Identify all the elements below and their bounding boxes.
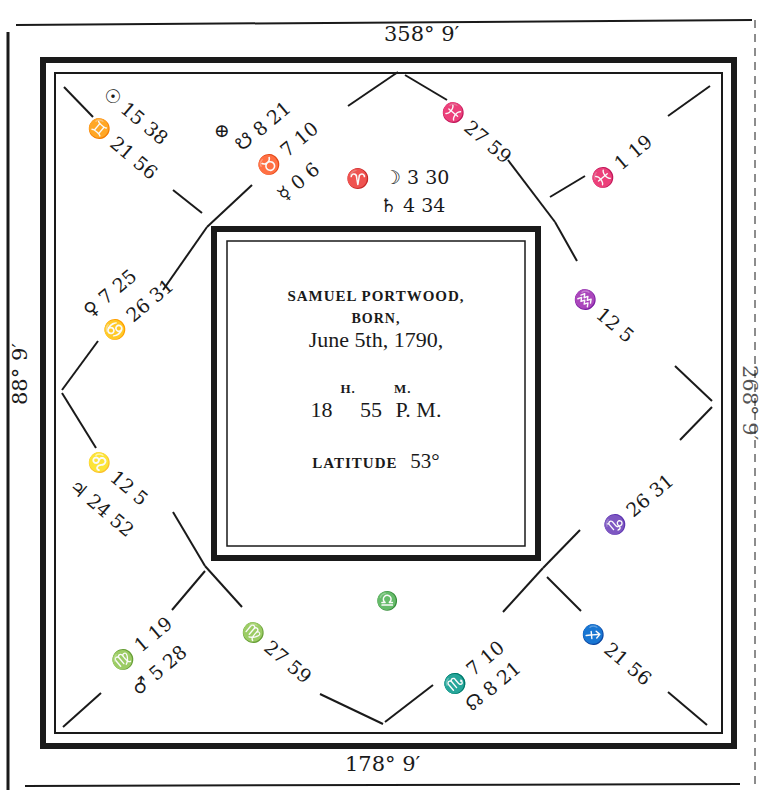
diamond-left-upper xyxy=(62,341,98,390)
native-name: SAMUEL PORTWOOD, xyxy=(220,288,532,305)
diamond-bottom-right xyxy=(385,685,433,722)
diamond-bl-segment-2 xyxy=(205,566,242,607)
diamond-right-lower xyxy=(680,407,712,440)
diamond-left-lower xyxy=(62,393,96,448)
diamond-tr-segment xyxy=(508,160,555,222)
diamond-tl-segment-2 xyxy=(207,185,252,227)
time-units-row: H. M. xyxy=(220,381,532,397)
house4-libra-icon: ♎ xyxy=(376,592,398,610)
diamond-bottom-left xyxy=(320,694,383,724)
corner-diagonal-bl xyxy=(63,693,101,727)
house10-saturn: ♄ 4 34 xyxy=(380,196,445,215)
birth-info-panel: SAMUEL PORTWOOD, BORN, June 5th, 1790, H… xyxy=(220,236,532,474)
diamond-br-segment xyxy=(503,568,543,612)
diamond-top-right xyxy=(405,75,447,100)
corner-diagonal-br-2 xyxy=(547,577,581,611)
corner-diagonal-tr xyxy=(668,86,710,116)
house10-moon: ☽ 3 30 xyxy=(384,168,449,187)
latitude-label: LATITUDE xyxy=(312,455,397,471)
cusp-left-label: 88° 9′ xyxy=(10,343,31,405)
birth-minutes: 55 xyxy=(360,397,382,423)
corner-diagonal-bl-2 xyxy=(172,571,205,610)
corner-diagonal-br xyxy=(668,692,707,725)
latitude-value: 53° xyxy=(410,449,439,473)
minutes-unit-label: M. xyxy=(394,381,412,397)
birth-ampm: P. M. xyxy=(396,397,442,423)
diamond-bl-segment xyxy=(173,512,205,566)
corner-diagonal-tl xyxy=(64,87,93,117)
house10-aries-icon: ♈ xyxy=(346,169,370,188)
latitude-row: LATITUDE 53° xyxy=(220,449,532,474)
corner-diagonal-tr-2 xyxy=(550,176,585,197)
birth-date: June 5th, 1790, xyxy=(220,327,532,353)
cusp-bottom-label: 178° 9′ xyxy=(345,754,420,775)
diamond-tr-segment-2 xyxy=(555,222,577,261)
hours-unit-label: H. xyxy=(340,381,355,397)
diamond-tl-segment xyxy=(163,227,207,290)
diamond-right-upper xyxy=(675,366,712,401)
cusp-right-label: 268° 9′ xyxy=(739,365,759,440)
corner-diagonal-tl-2 xyxy=(173,190,202,213)
house11-part-of-fortune-icon: ⊕ xyxy=(214,121,230,140)
birth-time-row: 18 55 P. M. xyxy=(220,397,532,423)
born-label: BORN, xyxy=(220,311,532,327)
diamond-br-segment-2 xyxy=(543,530,580,568)
cusp-top-label: 358° 9′ xyxy=(384,24,459,45)
birth-hours: 18 xyxy=(311,397,333,423)
diamond-top-left xyxy=(348,72,398,106)
outer-frame-bottom xyxy=(25,784,740,786)
